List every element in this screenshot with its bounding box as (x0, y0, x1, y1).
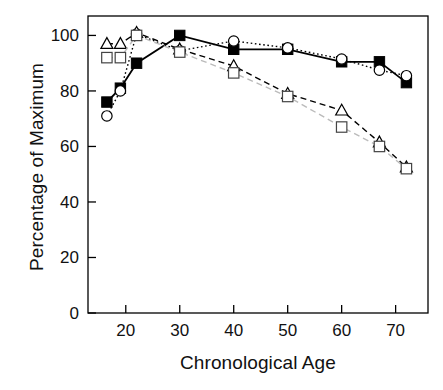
axis-tick-labels: 020406080100203040506070 (51, 26, 405, 340)
y-axis-title: Percentage of Maximum (26, 33, 48, 301)
svg-text:70: 70 (386, 321, 405, 340)
svg-text:30: 30 (170, 321, 189, 340)
svg-text:100: 100 (51, 26, 79, 45)
svg-text:40: 40 (224, 321, 243, 340)
series-open-square-dashed (102, 30, 412, 174)
series-filled-square-solid (102, 30, 412, 107)
svg-text:60: 60 (60, 137, 79, 156)
svg-text:50: 50 (278, 321, 297, 340)
x-axis-title: Chronological Age (88, 352, 428, 374)
svg-text:20: 20 (116, 321, 135, 340)
chart-figure: 020406080100203040506070 Percentage of M… (0, 0, 443, 390)
svg-text:20: 20 (60, 248, 79, 267)
svg-text:0: 0 (70, 304, 79, 323)
svg-text:80: 80 (60, 82, 79, 101)
chart-plot-area: 020406080100203040506070 (0, 0, 443, 390)
series-open-circle-dotted (102, 29, 412, 121)
svg-text:40: 40 (60, 193, 79, 212)
data-series-group (101, 27, 413, 174)
svg-text:60: 60 (332, 321, 351, 340)
series-open-triangle-dashed (101, 27, 413, 172)
